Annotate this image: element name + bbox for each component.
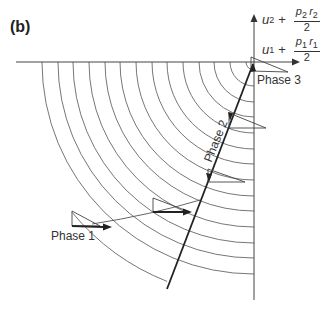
contour-arc <box>105 62 254 211</box>
label-plus: + <box>278 42 286 57</box>
fraction: p1 r1 2 <box>294 36 320 63</box>
phase1-arrow <box>72 226 104 227</box>
phase2-lower-triangle <box>208 169 245 182</box>
label-plus: + <box>278 12 286 27</box>
vertical-axis-label: u2 + p2 r2 2 <box>262 6 320 33</box>
diagram-canvas: (b) u2 + p2 r2 2 u1 + p1 r1 2 Phase 1 Ph… <box>0 0 327 309</box>
contour-arc <box>152 62 254 164</box>
contour-arc <box>89 62 254 227</box>
phase1-triangle <box>72 211 100 226</box>
contour-arc <box>230 62 254 86</box>
phase3-label: Phase 3 <box>257 73 301 87</box>
fraction-denominator: 2 <box>304 52 310 63</box>
horizontal-axis-label: u1 + p1 r1 2 <box>262 36 320 63</box>
phase2-upper-triangle <box>229 113 266 128</box>
panel-label: (b) <box>10 18 30 36</box>
contour-arcs <box>42 62 254 281</box>
label-sub: 1 <box>269 45 274 55</box>
label-sub: 2 <box>269 15 274 25</box>
contour-arc <box>199 62 254 117</box>
fraction-numerator: p2 r2 <box>294 6 320 22</box>
contour-arc <box>120 62 254 196</box>
vertical-axis-arrow-icon <box>251 14 258 22</box>
phase1-label: Phase 1 <box>51 229 95 243</box>
contour-arc <box>214 62 254 102</box>
phase2-lower-arrowhead-icon <box>206 173 212 182</box>
contour-arc <box>73 62 254 243</box>
fraction: p2 r2 2 <box>294 6 320 33</box>
fraction-denominator: 2 <box>304 22 310 33</box>
phase1-arrowhead-icon <box>103 224 112 231</box>
label-var: u <box>262 12 269 27</box>
contour-arc <box>72 212 167 281</box>
fraction-numerator: p1 r1 <box>294 36 320 52</box>
label-var: u <box>262 42 269 57</box>
